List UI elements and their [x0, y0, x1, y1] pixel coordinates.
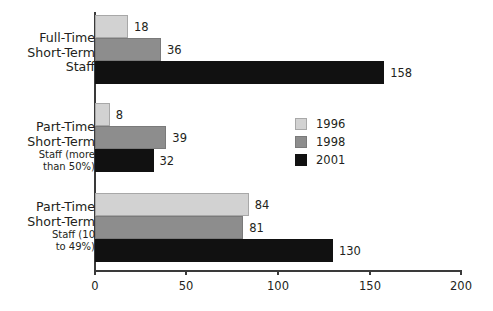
x-axis-tick-label-50: 50	[179, 279, 194, 293]
legend-label-1998: 1998	[316, 135, 345, 149]
category-label-line: Staff	[27, 60, 95, 75]
bar-value-label-1996-group-2: 84	[255, 198, 270, 212]
bar-chart: 0 50 100 150 200 1836158839328481130 Ful…	[0, 0, 493, 311]
bar-value-label-1996-group-1: 8	[116, 108, 123, 122]
legend-swatch-1998-icon	[295, 136, 307, 148]
category-label-part-time-short-term-staff-10-to-49: Part-TimeShort-TermStaff (10to 49%)	[27, 200, 95, 252]
category-label-line: Short-Term	[27, 46, 95, 61]
bar-value-label-1998-group-0: 36	[167, 43, 182, 57]
bar-2001-group-1	[95, 149, 154, 172]
bar-2001-group-2	[95, 239, 333, 262]
bar-1998-group-0	[95, 38, 161, 61]
category-label-line: Part-Time	[27, 120, 95, 135]
legend-item-2001: 2001	[295, 152, 345, 168]
x-axis-tick-label-0: 0	[91, 279, 98, 293]
legend-item-1998: 1998	[295, 134, 345, 150]
legend-label-2001: 2001	[316, 153, 345, 167]
category-label-line: than 50%)	[27, 161, 95, 173]
x-axis-tick-label-100: 100	[267, 279, 289, 293]
bar-2001-group-0	[95, 61, 384, 84]
legend-swatch-1996-icon	[295, 118, 307, 130]
category-label-line: Full-Time	[27, 31, 95, 46]
x-axis-tick-50	[185, 270, 187, 275]
category-label-line: Short-Term	[27, 135, 95, 150]
x-axis-tick-0	[94, 270, 96, 275]
bar-1998-group-2	[95, 216, 243, 239]
x-axis-tick-label-200: 200	[450, 279, 472, 293]
category-label-line: to 49%)	[27, 241, 95, 253]
category-label-line: Short-Term	[27, 215, 95, 230]
category-label-full-time-short-term-staff: Full-TimeShort-TermStaff	[27, 31, 95, 75]
bar-value-label-2001-group-0: 158	[390, 66, 412, 80]
legend-item-1996: 1996	[295, 116, 345, 132]
bar-value-label-1998-group-2: 81	[249, 221, 264, 235]
bar-1996-group-1	[95, 103, 110, 126]
x-axis-tick-150	[369, 270, 371, 275]
x-axis-tick-200	[460, 270, 462, 275]
bar-1996-group-2	[95, 193, 249, 216]
bar-1996-group-0	[95, 15, 128, 38]
category-label-line: Staff (10	[27, 229, 95, 241]
category-label-part-time-short-term-staff-more-than-50: Part-TimeShort-TermStaff (morethan 50%)	[27, 120, 95, 172]
legend-label-1996: 1996	[316, 117, 345, 131]
bar-value-label-2001-group-2: 130	[339, 244, 361, 258]
category-label-line: Part-Time	[27, 200, 95, 215]
plot-area: 1836158839328481130	[95, 12, 461, 270]
legend: 1996 1998 2001	[295, 116, 345, 170]
legend-swatch-2001-icon	[295, 154, 307, 166]
x-axis-tick-label-150: 150	[359, 279, 381, 293]
x-axis-tick-100	[277, 270, 279, 275]
bar-value-label-1998-group-1: 39	[172, 131, 187, 145]
bar-value-label-2001-group-1: 32	[160, 154, 175, 168]
bar-1998-group-1	[95, 126, 166, 149]
bar-value-label-1996-group-0: 18	[134, 20, 149, 34]
category-label-line: Staff (more	[27, 149, 95, 161]
